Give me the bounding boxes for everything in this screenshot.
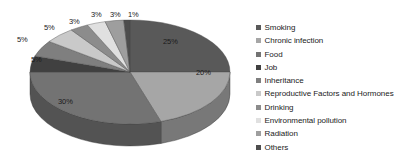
legend-item-0[interactable]: Smoking bbox=[256, 21, 405, 34]
slice-percent-label-7: 3% bbox=[91, 10, 102, 19]
legend-swatch-icon-8 bbox=[256, 131, 261, 136]
legend-label-0: Smoking bbox=[265, 21, 296, 34]
legend-swatch-icon-9 bbox=[256, 145, 261, 150]
legend-swatch-icon-7 bbox=[256, 118, 261, 123]
slice-percent-label-1: 20% bbox=[196, 68, 211, 77]
legend-swatch-icon-3 bbox=[256, 65, 261, 70]
legend-swatch-icon-5 bbox=[256, 91, 261, 96]
legend-item-1[interactable]: Chronic infection bbox=[256, 34, 405, 47]
pie-graphic bbox=[0, 0, 240, 162]
slice-percent-label-8: 3% bbox=[110, 10, 121, 19]
legend-item-3[interactable]: Job bbox=[256, 61, 405, 74]
legend-item-9[interactable]: Others bbox=[256, 141, 405, 154]
legend-swatch-icon-2 bbox=[256, 52, 261, 57]
slice-percent-label-6: 3% bbox=[69, 17, 80, 26]
slice-percent-label-9: 1% bbox=[128, 10, 139, 19]
legend-item-5[interactable]: Reproductive Factors and Hormones bbox=[256, 87, 405, 100]
legend-swatch-icon-1 bbox=[256, 38, 261, 43]
pie-slice-0[interactable] bbox=[130, 20, 230, 72]
legend-label-7: Environmental pollution bbox=[265, 114, 347, 127]
legend-swatch-icon-6 bbox=[256, 105, 261, 110]
legend-item-7[interactable]: Environmental pollution bbox=[256, 114, 405, 127]
legend-label-8: Radiation bbox=[265, 127, 298, 140]
slice-percent-label-3: 5% bbox=[31, 55, 42, 64]
legend-label-4: Inheritance bbox=[265, 74, 304, 87]
slice-percent-label-0: 25% bbox=[163, 37, 178, 46]
legend-item-6[interactable]: Drinking bbox=[256, 101, 405, 114]
legend-label-1: Chronic infection bbox=[265, 34, 324, 47]
legend-item-4[interactable]: Inheritance bbox=[256, 74, 405, 87]
pie-plot-area: 25%20%30%5%5%5%3%3%3%1% bbox=[0, 0, 240, 162]
legend-swatch-icon-0 bbox=[256, 25, 261, 30]
legend-item-8[interactable]: Radiation bbox=[256, 127, 405, 140]
slice-percent-label-2: 30% bbox=[58, 97, 73, 106]
chart-legend: SmokingChronic infectionFoodJobInheritan… bbox=[256, 21, 405, 154]
legend-label-9: Others bbox=[265, 141, 289, 154]
slice-percent-label-4: 5% bbox=[17, 35, 28, 44]
legend-label-6: Drinking bbox=[265, 101, 294, 114]
legend-label-2: Food bbox=[265, 48, 283, 61]
legend-label-5: Reproductive Factors and Hormones bbox=[265, 87, 394, 100]
legend-item-2[interactable]: Food bbox=[256, 48, 405, 61]
slice-percent-label-5: 5% bbox=[44, 23, 55, 32]
legend-label-3: Job bbox=[265, 61, 278, 74]
pie-chart: 25%20%30%5%5%5%3%3%3%1% SmokingChronic i… bbox=[0, 0, 405, 162]
legend-swatch-icon-4 bbox=[256, 78, 261, 83]
